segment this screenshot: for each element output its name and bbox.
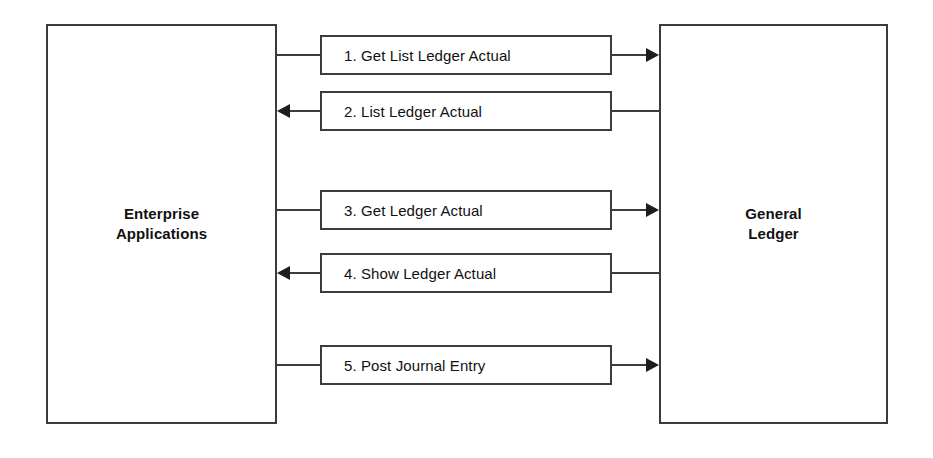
connector-message-5-right [612,364,647,366]
arrowhead-message-1-right-icon [646,48,659,62]
connector-message-3-right [612,209,647,211]
arrowhead-message-2-left-icon [277,104,290,118]
connector-message-4-right [612,272,659,274]
message-box-5: 5. Post Journal Entry [320,345,612,385]
connector-message-2-right [612,110,659,112]
message-box-3: 3. Get Ledger Actual [320,190,612,230]
message-box-3-label: 3. Get Ledger Actual [322,202,483,219]
message-box-2: 2. List Ledger Actual [320,91,612,131]
connector-message-2-left [290,110,320,112]
arrowhead-message-5-right-icon [646,358,659,372]
message-box-2-label: 2. List Ledger Actual [322,103,482,120]
connector-message-1-left [277,54,320,56]
message-box-1: 1. Get List Ledger Actual [320,35,612,75]
entity-general-ledger: General Ledger [659,24,888,424]
arrowhead-message-3-right-icon [646,203,659,217]
entity-enterprise-applications: Enterprise Applications [46,24,277,424]
entity-enterprise-applications-label: Enterprise Applications [116,204,207,245]
arrowhead-message-4-left-icon [277,266,290,280]
entity-general-ledger-label: General Ledger [745,204,802,245]
message-box-4-label: 4. Show Ledger Actual [322,265,496,282]
connector-message-1-right [612,54,647,56]
message-box-5-label: 5. Post Journal Entry [322,357,485,374]
connector-message-4-left [290,272,320,274]
connector-message-3-left [277,209,320,211]
message-box-1-label: 1. Get List Ledger Actual [322,47,511,64]
diagram-canvas: Enterprise Applications General Ledger 1… [0,0,933,458]
connector-message-5-left [277,364,320,366]
message-box-4: 4. Show Ledger Actual [320,253,612,293]
